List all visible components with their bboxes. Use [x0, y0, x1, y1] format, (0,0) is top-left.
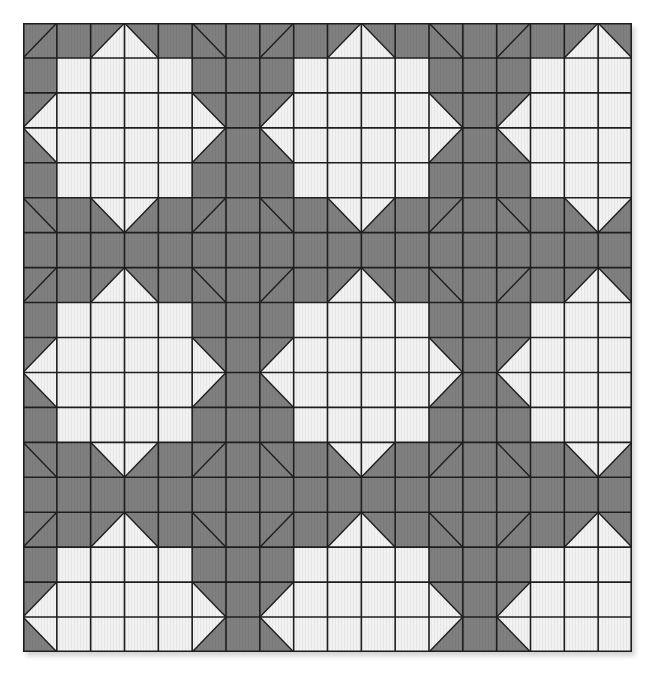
quilt-pattern — [23, 23, 632, 652]
quilt-grid — [23, 23, 632, 652]
